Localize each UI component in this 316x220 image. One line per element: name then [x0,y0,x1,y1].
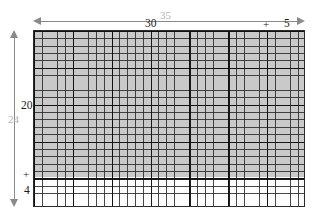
grid-unshaded-band [34,177,304,207]
top-part-a-label: 30 [145,17,157,29]
arrowhead-down-icon [10,199,18,207]
left-part-b-label: 4 [24,184,30,196]
arrowhead-right-icon [297,17,305,25]
grid-rectangle [33,30,305,207]
top-plus-operator: + [263,18,269,30]
left-part-a-label: 20 [21,99,33,111]
left-total-label: 24 [8,113,19,125]
diagram-canvas: 35 30 + 5 24 20 + 4 [0,0,316,220]
top-part-b-label: 5 [284,17,290,29]
top-total-label: 35 [160,9,171,21]
arrow-shaft [39,21,299,22]
left-plus-operator: + [23,168,29,180]
